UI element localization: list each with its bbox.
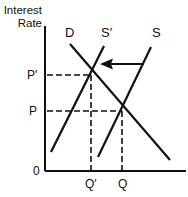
- q-prime-label: Q′: [85, 178, 97, 190]
- q-label: Q: [118, 178, 127, 190]
- origin-label: 0: [33, 165, 40, 177]
- demand-curve: [70, 44, 170, 160]
- demand-label: D: [65, 27, 74, 39]
- p-label: P: [29, 105, 37, 117]
- supply-new-label: S′: [101, 27, 112, 39]
- supply-original-label: S: [152, 27, 161, 39]
- supply-new-curve: [51, 46, 104, 152]
- p-prime-label: P′: [27, 69, 37, 81]
